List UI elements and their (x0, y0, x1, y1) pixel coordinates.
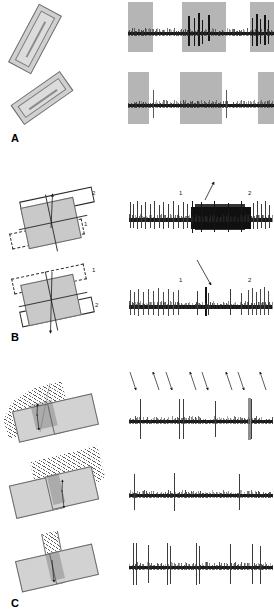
baseline-noise (272, 494, 273, 498)
spike (183, 202, 184, 229)
baseline-noise (272, 565, 273, 570)
panel-b-trace-bottom (129, 283, 272, 323)
shaded-epoch (180, 72, 222, 124)
panel-a-stimulus-bar-2-core (29, 89, 58, 110)
panel-b-top-marker-1: 1 (179, 190, 182, 196)
panel-a-stimulus-bar-2-inner (18, 78, 67, 118)
panel-c-sweep-arrows (130, 372, 266, 390)
shaded-epoch (250, 2, 274, 52)
panel-a-stimulus-bar-1-core (26, 21, 47, 57)
panel-a-trace-bottom (128, 72, 274, 124)
panel-c-stimulus-2 (12, 458, 112, 520)
stimulus-bar-label-1: 1 (92, 267, 95, 273)
spike (205, 287, 207, 316)
panel-label-a: A (11, 133, 19, 144)
baseline-noise (272, 417, 273, 424)
panel-b-stimulus-1: 2 1 (8, 190, 100, 260)
panel-b-trace-top (129, 196, 272, 238)
panel-c-stimulus-3 (14, 534, 114, 596)
panel-c-trace-top (129, 396, 273, 440)
shaded-epoch (258, 72, 274, 124)
shaded-epoch (128, 72, 149, 124)
panel-c-trace-bottom (129, 540, 273, 588)
panel-a-stimulus-bar-1-inner (15, 11, 55, 68)
stimulus-bar-label-2: 2 (92, 190, 95, 196)
panel-b-top-marker-2: 2 (248, 190, 251, 196)
panel-a-stimulus-bar-2 (11, 71, 74, 125)
panel-a-trace-top (128, 2, 274, 52)
panel-b-bottom-marker-2: 2 (248, 277, 251, 283)
spike (230, 289, 231, 315)
baseline-noise (272, 302, 273, 309)
panel-b-bottom-annotation-arrow (197, 260, 211, 285)
stimulus-bar-label-2: 2 (95, 302, 98, 308)
panel-a-stimulus-bar-1 (8, 4, 62, 74)
panel-c-stimulus-1 (2, 388, 102, 450)
panel-label-c: C (11, 598, 19, 609)
shaded-epoch (128, 2, 153, 52)
baseline-noise (272, 215, 273, 222)
panel-b-stimulus-2: 1 2 (8, 266, 100, 338)
stimulus-bar-label-1: 1 (84, 221, 87, 227)
neurophysiology-figure: A 2 1 1 2 (0, 0, 274, 614)
panel-b-bottom-marker-1: 1 (179, 277, 182, 283)
spike (252, 288, 253, 315)
spike (173, 201, 174, 229)
panel-label-b: B (11, 332, 19, 343)
panel-c-trace-middle (129, 472, 273, 512)
